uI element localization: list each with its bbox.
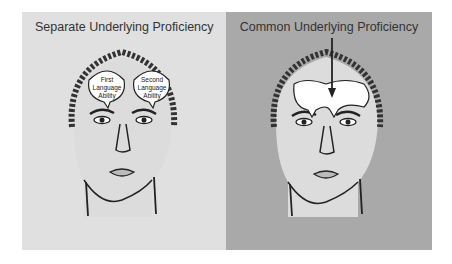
common-underlying-proficiency-panel: Common Underlying Proficiency (226, 12, 432, 250)
bubble-1-line-1: First (101, 76, 114, 83)
bubble-2-line-1: Second (141, 76, 163, 83)
bubble-1-line-2: Language (93, 84, 122, 92)
bubble-1-line-3: Ability (98, 92, 116, 100)
separate-underlying-proficiency-panel: Separate Underlying Proficiency First La… (22, 12, 226, 250)
face-illustration (226, 12, 432, 250)
bubble-2-line-3: Ability (143, 92, 161, 100)
bubble-2-line-2: Language (138, 84, 167, 92)
face-illustration: First Language Ability Second Language A… (22, 12, 226, 250)
